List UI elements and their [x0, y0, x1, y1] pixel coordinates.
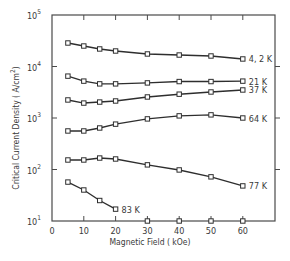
data-point-marker: [98, 47, 102, 51]
x-tick-labels: 0102030405060: [49, 226, 248, 236]
data-point-marker: [145, 163, 149, 167]
critical-current-density-chart: 0102030405060 101102103104105 4, 2 K21 K…: [0, 0, 290, 261]
data-point-marker: [209, 54, 213, 58]
x-tick-label: 0: [49, 226, 54, 236]
series-37-k: 37 K: [66, 85, 268, 105]
data-point-marker: [241, 79, 245, 83]
data-point-marker: [66, 98, 70, 102]
data-point-marker: [98, 100, 102, 104]
data-point-marker: [82, 44, 86, 48]
data-point-marker: [66, 158, 70, 162]
baseline-marker: [145, 219, 149, 223]
series-label: 77 K: [249, 181, 268, 191]
y-tick-label: 101: [27, 214, 41, 227]
data-point-marker: [209, 175, 213, 179]
y-axis-title: Critical Current Density ( A/cm2): [9, 66, 21, 189]
data-point-marker: [241, 184, 245, 188]
data-point-marker: [98, 198, 102, 202]
baseline-marker: [177, 219, 181, 223]
y-tick-label: 103: [27, 111, 41, 124]
data-point-marker: [113, 99, 117, 103]
series-label: 83 K: [122, 205, 141, 215]
data-point-marker: [82, 129, 86, 133]
data-point-marker: [98, 82, 102, 86]
y-tick-label: 102: [27, 163, 41, 176]
x-axis-title: Magnetic Field ( kOe): [109, 237, 190, 247]
data-point-marker: [145, 117, 149, 121]
data-point-marker: [177, 92, 181, 96]
data-point-marker: [209, 90, 213, 94]
data-point-marker: [113, 157, 117, 161]
data-point-marker: [177, 168, 181, 172]
data-point-marker: [98, 156, 102, 160]
data-point-marker: [209, 113, 213, 117]
data-point-marker: [241, 57, 245, 61]
y-tick-label: 104: [27, 60, 41, 73]
x-tick-label: 20: [110, 226, 120, 236]
data-point-marker: [98, 126, 102, 130]
baseline-marker: [209, 219, 213, 223]
series-line: [68, 76, 243, 84]
data-point-marker: [66, 74, 70, 78]
x-tick-label: 30: [142, 226, 152, 236]
data-point-marker: [82, 79, 86, 83]
data-point-marker: [66, 41, 70, 45]
series-83-k: 83 K: [66, 180, 141, 215]
series-4-2-k: 4, 2 K: [66, 41, 273, 65]
data-point-marker: [241, 116, 245, 120]
data-point-marker: [241, 88, 245, 92]
data-point-marker: [209, 79, 213, 83]
series-line: [68, 115, 243, 131]
baseline-marker: [241, 219, 245, 223]
data-point-marker: [66, 129, 70, 133]
series-label: 64 K: [249, 114, 268, 124]
data-point-marker: [177, 79, 181, 83]
x-tick-label: 40: [174, 226, 184, 236]
data-point-marker: [177, 114, 181, 118]
data-point-marker: [113, 207, 117, 211]
series-77-k: 77 K: [66, 156, 268, 192]
data-point-marker: [145, 95, 149, 99]
series-line: [68, 158, 243, 186]
x-tick-label: 50: [206, 226, 216, 236]
data-point-marker: [113, 49, 117, 53]
y-tick-label: 105: [27, 8, 41, 21]
data-point-marker: [113, 82, 117, 86]
data-point-marker: [66, 180, 70, 184]
series-line: [68, 182, 116, 209]
data-series: 4, 2 K21 K37 K64 K77 K83 K: [66, 41, 273, 215]
data-point-marker: [145, 81, 149, 85]
series-21-k: 21 K: [66, 74, 268, 87]
series-64-k: 64 K: [66, 113, 268, 133]
data-point-marker: [82, 158, 86, 162]
data-point-marker: [82, 101, 86, 105]
series-line: [68, 43, 243, 59]
y-tick-labels: 101102103104105: [27, 8, 41, 227]
series-label: 4, 2 K: [249, 54, 273, 64]
data-point-marker: [177, 53, 181, 57]
data-point-marker: [113, 122, 117, 126]
x-tick-label: 60: [238, 226, 248, 236]
data-point-marker: [145, 52, 149, 56]
series-label: 37 K: [249, 85, 268, 95]
x-tick-label: 10: [79, 226, 89, 236]
series-line: [68, 90, 243, 103]
data-point-marker: [82, 188, 86, 192]
